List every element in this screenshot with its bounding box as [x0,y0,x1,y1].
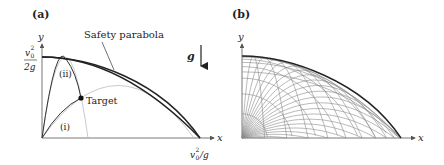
target-point [78,95,83,100]
y-axis-label-b: y [237,31,244,42]
x-axis-label-b: x [418,132,424,143]
gravity-label: g [187,50,195,63]
panel-a: (a) y x v 2 0 2g v 2 0 /g [23,8,223,161]
x-tick-max-range: v 2 0 /g [190,146,209,161]
svg-text:v: v [25,48,30,58]
svg-text:0: 0 [31,52,35,59]
y-axis-label: y [37,31,44,42]
panel-b: (b) y x [232,8,424,143]
panel-a-label: (a) [32,8,50,21]
svg-text:2g: 2g [23,62,36,72]
svg-text:/g: /g [199,150,209,160]
trajectory-family [242,56,401,138]
safety-label-pointer [102,42,114,70]
trajectory-ii-label: (ii) [59,69,72,79]
svg-text:v: v [190,150,195,160]
svg-text:2: 2 [196,146,200,153]
target-label: Target [86,95,118,106]
y-tick-max-height: v 2 0 2g [23,44,37,72]
figure: (a) y x v 2 0 2g v 2 0 /g [0,0,444,165]
trajectory-i-label: (i) [60,122,70,132]
safety-parabola-label: Safety parabola [84,29,164,40]
svg-text:0: 0 [196,154,200,161]
svg-text:2: 2 [31,44,35,51]
panel-b-label: (b) [232,8,250,21]
x-axis-label: x [217,132,223,143]
